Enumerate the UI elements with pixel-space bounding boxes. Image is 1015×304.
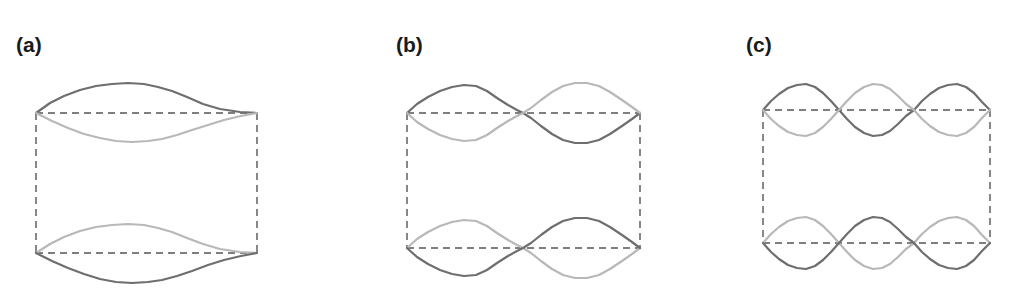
panel-b: (b) [396, 33, 640, 278]
panel-b-bottom-light-curve [407, 220, 640, 278]
panel-a-top-light-curve [36, 113, 257, 142]
panel-b-bottom-dark-curve [407, 218, 640, 276]
panel-b-label: (b) [396, 33, 423, 56]
panel-a: (a) [16, 33, 257, 283]
panel-c-mode-curves [763, 84, 990, 269]
panel-a-dashed-outline [36, 113, 257, 253]
panel-b-mode-curves [407, 83, 640, 278]
panel-b-top-light-curve [407, 83, 640, 141]
panel-a-bottom-light-curve [36, 224, 257, 253]
standing-wave-mode-figure: (a) (b) (c) [0, 0, 1015, 304]
panel-b-dashed-outline [407, 113, 640, 248]
panel-b-top-dark-curve [407, 85, 640, 143]
panel-c-dashed-outline [763, 110, 990, 243]
panel-a-top-dark-curve [36, 83, 257, 113]
panel-a-bottom-dark-curve [36, 253, 257, 283]
panel-c: (c) [746, 33, 990, 269]
panel-a-label: (a) [16, 33, 42, 56]
panel-c-label: (c) [746, 33, 772, 56]
